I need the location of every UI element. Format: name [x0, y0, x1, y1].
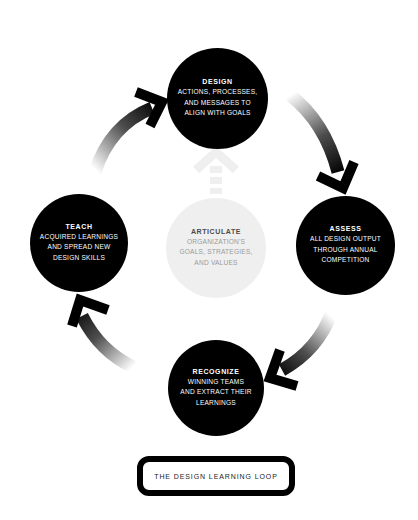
node-recognize-line: LEARNINGS: [196, 398, 236, 409]
arrow-recognize-to-teach: [72, 300, 135, 368]
arrow-teach-to-design: [95, 92, 162, 172]
node-teach: TEACH ACQUIRED LEARNINGS AND SPREAD NEW …: [30, 194, 128, 292]
node-articulate: ARTICULATE ORGANIZATION'S GOALS, STRATEG…: [166, 198, 266, 298]
node-design-line: ACTIONS, PROCESSES,: [178, 87, 258, 98]
node-articulate-title: ARTICULATE: [191, 228, 241, 235]
node-design: DESIGN ACTIONS, PROCESSES, AND MESSAGES …: [167, 48, 268, 149]
diagram-title-box: THE DESIGN LEARNING LOOP: [137, 456, 295, 496]
node-assess-line: COMPETITION: [322, 255, 370, 266]
node-assess-title: ASSESS: [330, 225, 362, 232]
node-articulate-line: ORGANIZATION'S: [187, 237, 245, 248]
node-recognize: RECOGNIZE WINNING TEAMS AND EXTRACT THEI…: [168, 340, 264, 436]
node-design-line: ALIGN WITH GOALS: [184, 108, 250, 119]
node-teach-title: TEACH: [65, 223, 92, 230]
node-design-line: AND MESSAGES TO: [184, 98, 251, 109]
node-design-title: DESIGN: [202, 78, 232, 85]
node-articulate-line: GOALS, STRATEGIES,: [179, 247, 252, 258]
node-assess-line: THROUGH ANNUAL: [313, 245, 377, 256]
node-assess: ASSESS ALL DESIGN OUTPUT THROUGH ANNUAL …: [296, 196, 395, 295]
arrow-design-to-assess: [290, 95, 354, 188]
node-recognize-line: WINNING TEAMS: [188, 377, 244, 388]
node-teach-line: AND SPREAD NEW: [48, 242, 111, 253]
node-assess-line: ALL DESIGN OUTPUT: [310, 234, 381, 245]
node-recognize-line: AND EXTRACT THEIR: [180, 387, 251, 398]
node-teach-line: DESIGN SKILLS: [53, 253, 105, 264]
diagram-title: THE DESIGN LEARNING LOOP: [154, 473, 278, 480]
arrow-assess-to-recognize: [270, 312, 332, 386]
node-articulate-line: AND VALUES: [194, 258, 237, 269]
arrow-articulate-to-design: [196, 152, 236, 194]
node-recognize-title: RECOGNIZE: [192, 368, 239, 375]
node-teach-line: ACQUIRED LEARNINGS: [40, 232, 118, 243]
